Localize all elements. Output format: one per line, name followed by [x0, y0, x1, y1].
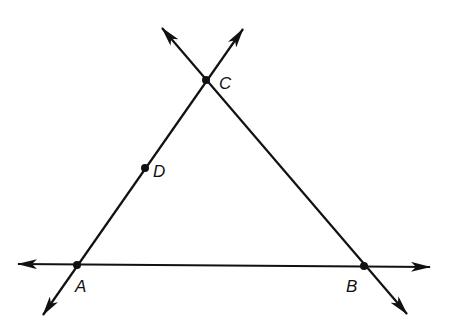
lines-layer [18, 28, 430, 315]
triangle-diagram: ABCD [0, 0, 451, 328]
labels-layer: ABCD [74, 74, 357, 296]
line-AC [43, 29, 243, 315]
label-C: C [219, 74, 232, 93]
label-D: D [153, 162, 165, 181]
label-B: B [346, 277, 357, 296]
point-A [73, 261, 81, 269]
label-A: A [74, 277, 86, 296]
point-D [141, 164, 149, 172]
points-layer [73, 76, 368, 270]
point-C [202, 76, 210, 84]
line-BC [162, 28, 407, 314]
point-B [360, 262, 368, 270]
